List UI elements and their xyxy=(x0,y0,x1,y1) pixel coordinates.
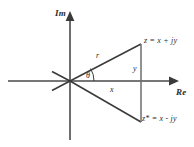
imaginary-axis-label: Im xyxy=(55,9,66,18)
z-point-label: z = x + jy xyxy=(144,37,177,45)
angle-theta-label: θ xyxy=(86,72,90,80)
ray-extension-upper-left xyxy=(52,81,70,91)
modulus-ray-to-z xyxy=(70,44,141,81)
imaginary-axis-arrowhead xyxy=(66,11,75,21)
real-axis-label: Re xyxy=(176,88,186,97)
angle-arc-theta xyxy=(91,69,94,81)
argand-diagram-figure: Im Re r θ x y z = x + jy z* = x - jy xyxy=(0,0,194,147)
z-conjugate-point-label: z* = x - jy xyxy=(142,115,177,123)
ray-extension-lower-left xyxy=(52,72,70,82)
modulus-ray-to-z-conjugate xyxy=(70,81,141,122)
imaginary-part-label: y xyxy=(133,65,137,73)
argand-diagram-canvas xyxy=(0,0,194,147)
real-axis-arrowhead xyxy=(169,77,179,86)
real-part-label: x xyxy=(110,86,114,94)
modulus-label: r xyxy=(96,52,99,60)
